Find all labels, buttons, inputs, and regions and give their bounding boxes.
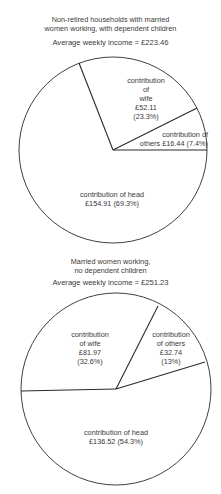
chart1-label-others: contribution of others £16.44 (7.4%) [128,130,208,148]
chart1-head-line2: £154.91 (69.3%) [62,199,162,208]
chart1-wife-line3: wife [110,94,182,103]
pie-charts-svg [0,0,221,494]
chart2-wife-line1: contribution [60,330,120,339]
chart1-label-head: contribution of head £154.91 (69.3%) [62,190,162,208]
chart1-wife-line1: contribution [110,76,182,85]
chart2-label-others: contribution of others £32.74 (13%) [143,330,199,366]
chart1-wife-pct: (23.3%) [110,112,182,121]
chart1-others-line2: others £16.44 (7.4%) [128,139,208,148]
chart2-pie [21,293,211,485]
chart1-wife-line2: of [110,85,182,94]
chart1-divider-wife-head [79,63,113,150]
chart2-wife-line2: of wife [60,339,120,348]
chart1-others-line1: contribution of [128,130,208,139]
chart2-head-line1: contribution of head [66,428,166,437]
chart2-head-line2: £136.52 (54.3%) [66,437,166,446]
chart2-others-line1: contribution [143,330,199,339]
chart2-others-line2: of others [143,339,199,348]
chart1-head-line1: contribution of head [62,190,162,199]
chart1-label-wife: contribution of wife £52.11 (23.3%) [110,76,182,121]
chart2-others-pct: (13%) [143,357,199,366]
chart2-label-wife: contribution of wife £81.97 (32.6%) [60,330,120,366]
chart2-divider-others-head [116,362,205,389]
chart2-divider-head-wife [21,389,116,391]
chart1-wife-value: £52.11 [110,103,182,112]
chart2-label-head: contribution of head £136.52 (54.3%) [66,428,166,446]
chart2-wife-pct: (32.6%) [60,357,120,366]
chart2-others-value: £32.74 [143,348,199,357]
chart2-wife-value: £81.97 [60,348,120,357]
